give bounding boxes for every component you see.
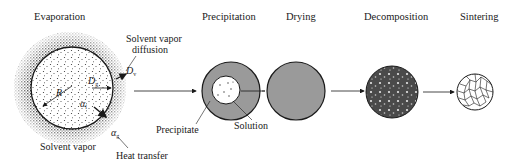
label-heat-transfer: Heat transfer [116,151,168,161]
stage-title-decomposition: Decomposition [364,12,428,23]
symbol-dv: Dv [126,66,136,77]
precipitation-particle [196,62,260,124]
label-precipitate: Precipitate [156,125,199,135]
dried-particle [267,62,325,120]
label-solvent-vapor: Solvent vapor [40,142,96,152]
sintered-particle [457,74,493,110]
label-solvent-vapor-diffusion-line2: diffusion [132,45,168,55]
solution-core [212,76,240,104]
label-solvent-vapor-diffusion-line1: Solvent vapor [126,34,182,44]
stage-title-sintering: Sintering [460,12,499,23]
heat-transfer-leader [118,137,128,148]
label-solution: Solution [234,121,268,131]
stage-title-drying: Drying [286,12,316,23]
decomposed-particle [366,66,418,118]
symbol-radius: R [56,88,62,98]
stage-title-precipitation: Precipitation [202,12,256,23]
stage-title-evaporation: Evaporation [34,12,85,23]
precipitate-leader [196,101,210,124]
symbol-alpha-l: αl [80,99,87,110]
symbol-alpha-g: αg [111,128,119,139]
symbol-dg: Dg [88,76,98,87]
